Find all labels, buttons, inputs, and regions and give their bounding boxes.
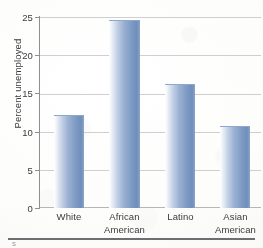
x-label-african-american-line1: African <box>109 211 139 222</box>
figure-container: Percent unemployed 25 20 15 10 5 0 White… <box>0 0 263 248</box>
bar-latino[interactable] <box>165 84 195 208</box>
y-tick-mark-0 <box>35 208 40 209</box>
plot-area <box>40 17 261 208</box>
y-tick-label-0: 0 <box>3 204 33 214</box>
y-tick-label-25: 25 <box>3 13 33 23</box>
x-label-white-line1: White <box>57 211 82 222</box>
x-label-asian-american: Asian American <box>208 211 263 236</box>
bar-asian-american[interactable] <box>220 126 250 208</box>
x-label-african-american-line2: American <box>97 224 152 237</box>
x-label-asian-american-line1: Asian <box>223 211 247 222</box>
y-tick-label-20: 20 <box>3 51 33 61</box>
x-label-white: White <box>44 211 94 224</box>
y-tick-label-5: 5 <box>3 166 33 176</box>
y-axis-tick-labels: 25 20 15 10 5 0 <box>0 0 33 248</box>
gridline-15 <box>40 94 261 95</box>
bar-african-american[interactable] <box>109 20 140 208</box>
footer-partial-glyph: s <box>12 241 19 247</box>
x-label-latino: Latino <box>155 211 206 224</box>
y-tick-label-15: 15 <box>3 89 33 99</box>
x-label-african-american: African American <box>97 211 152 236</box>
bar-white[interactable] <box>54 115 84 208</box>
gridline-25 <box>40 17 261 18</box>
gridline-20 <box>40 55 261 56</box>
footer-divider <box>8 238 255 240</box>
x-label-asian-american-line2: American <box>208 224 263 237</box>
x-label-latino-line1: Latino <box>167 211 193 222</box>
y-tick-label-10: 10 <box>3 128 33 138</box>
